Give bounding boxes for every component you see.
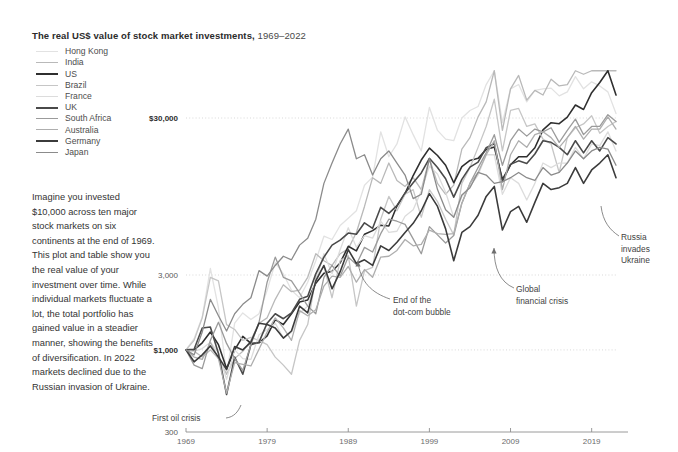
x-axis-label-1969: 1969 xyxy=(177,437,195,446)
x-axis-label-2019: 2019 xyxy=(583,437,601,446)
x-axis-label-2009: 2009 xyxy=(502,437,520,446)
x-axis-label-1979: 1979 xyxy=(258,437,276,446)
annotation-leader-russia-invades-ukraine xyxy=(601,206,619,236)
annotation-line: End of the xyxy=(393,295,432,305)
annotation-russia-invades-ukraine: RussiainvadesUkraine xyxy=(621,232,650,265)
annotation-line: dot-com bubble xyxy=(393,307,451,317)
chart-plot-area: $30,0003,000$1,0003001969197919891999200… xyxy=(0,0,678,452)
annotation-line: Ukraine xyxy=(621,255,650,265)
line-chart-svg: $30,0003,000$1,0003001969197919891999200… xyxy=(0,0,678,452)
annotation-global-financial-crisis: Globalfinancial crisis xyxy=(516,284,568,306)
series-line-australia xyxy=(186,117,616,393)
annotation-line: First oil crisis xyxy=(152,413,200,423)
series-line-uk xyxy=(186,138,616,395)
annotation-line: Global xyxy=(516,284,540,294)
series-line-south-africa xyxy=(186,115,616,371)
x-axis-label-1989: 1989 xyxy=(339,437,357,446)
y-axis-label-1000: $1,000 xyxy=(154,346,179,355)
annotation-leader-first-oil-crisis xyxy=(226,405,241,418)
series-group xyxy=(186,71,616,395)
annotation-line: Russia xyxy=(621,232,647,242)
y-axis-label-3000: 3,000 xyxy=(158,271,179,280)
annotation-arrow-global-financial-crisis xyxy=(491,248,496,253)
annotation-end-dotcom-bubble: End of thedot-com bubble xyxy=(393,295,451,317)
x-axis-label-1999: 1999 xyxy=(420,437,438,446)
annotation-leader-global-financial-crisis xyxy=(494,248,514,288)
annotation-line: financial crisis xyxy=(516,296,568,306)
y-axis-label-30000: $30,000 xyxy=(149,114,178,123)
y-axis-label-300: 300 xyxy=(165,428,179,437)
series-line-japan xyxy=(186,129,616,355)
annotation-first-oil-crisis: First oil crisis xyxy=(152,413,200,423)
annotation-line: invades xyxy=(621,244,650,254)
series-line-us xyxy=(186,71,616,369)
